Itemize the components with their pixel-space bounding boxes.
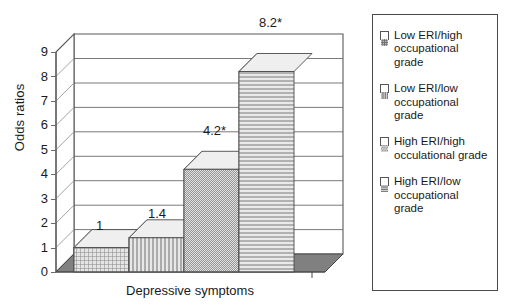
bar-value-label-2: 1.4: [148, 206, 166, 221]
legend-swatch-vertical-icon: [380, 84, 389, 93]
legend-label: High ERI/low occupational grade: [394, 175, 490, 215]
chart-figure: Odds ratios: [0, 0, 507, 306]
legend-swatch-crosshatch-icon: [380, 31, 389, 40]
bar-value-label-3: 4.2*: [203, 123, 226, 138]
legend-label: Low ERI/low occupational grade: [394, 82, 490, 122]
x-axis-title: Depressive symptoms: [55, 283, 325, 298]
y-tick-label-4: 4: [26, 169, 48, 179]
legend-item-low-eri-low-grade[interactable]: Low ERI/low occupational grade: [380, 82, 490, 122]
legend: Low ERI/high occupational grade Low ERI/…: [372, 14, 498, 291]
left-wall: [56, 34, 74, 272]
legend-item-low-eri-high-grade[interactable]: Low ERI/high occupational grade: [380, 29, 490, 69]
y-tick-label-6: 6: [26, 120, 48, 130]
y-tick-label-5: 5: [26, 145, 48, 155]
bar-value-label-4: 8.2*: [259, 15, 282, 30]
legend-swatch-horizontal-icon: [380, 177, 389, 186]
y-tick-label-0: 0: [26, 267, 48, 277]
y-tick-label-1: 1: [26, 243, 48, 253]
bar-value-label-1: 1: [96, 218, 103, 233]
y-tick-label-2: 2: [26, 218, 48, 228]
chart-canvas: [0, 0, 360, 306]
y-tick-label-9: 9: [26, 47, 48, 57]
legend-item-high-eri-low-grade[interactable]: High ERI/low occupational grade: [380, 175, 490, 215]
legend-label: High ERI/high occulational grade: [394, 135, 490, 162]
legend-swatch-dots-icon: [380, 137, 389, 146]
y-tick-label-3: 3: [26, 194, 48, 204]
plot-area: Odds ratios: [0, 0, 360, 306]
legend-label: Low ERI/high occupational grade: [394, 29, 490, 69]
y-tick-label-8: 8: [26, 72, 48, 82]
legend-item-high-eri-high-grade[interactable]: High ERI/high occulational grade: [380, 135, 490, 162]
y-tick-label-7: 7: [26, 96, 48, 106]
